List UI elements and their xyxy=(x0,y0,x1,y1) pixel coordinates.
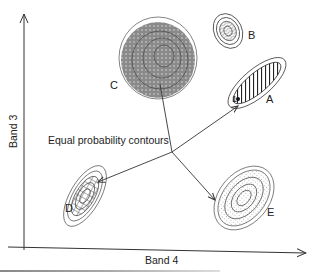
x-axis xyxy=(8,247,306,253)
page-edge-shadow xyxy=(0,270,220,272)
cluster-b xyxy=(208,9,249,53)
cluster-d xyxy=(55,159,115,233)
label-a: A xyxy=(266,93,274,105)
label-e: E xyxy=(267,206,274,218)
cluster-a xyxy=(220,49,293,117)
cluster-c xyxy=(119,17,197,99)
label-d: D xyxy=(65,202,73,214)
cluster-e xyxy=(202,154,287,241)
label-point-1: 1 xyxy=(232,94,237,104)
label-b: B xyxy=(248,29,255,41)
probability-contour-diagram: C B A 1 D E Equal probability contours B… xyxy=(0,0,321,276)
annotation-label: Equal probability contours xyxy=(48,134,169,146)
x-axis-label: Band 4 xyxy=(145,254,178,266)
y-axis-label: Band 3 xyxy=(7,115,19,148)
label-c: C xyxy=(110,79,118,91)
